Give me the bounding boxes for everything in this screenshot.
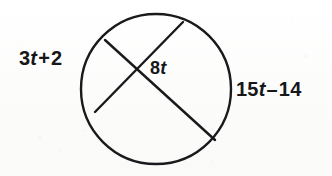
chord-label-center: 8t <box>150 59 166 77</box>
chord-label-center-variable: t <box>160 58 166 78</box>
chord-label-left-operator: + <box>37 47 51 69</box>
chord-label-left-constant: 2 <box>51 47 62 69</box>
chord-upper-left-to-lower-right <box>105 40 215 140</box>
chord-label-right-constant: 14 <box>279 78 302 100</box>
chord-label-right-coefficient: 15 <box>236 78 259 100</box>
chord-label-left-coefficient: 3 <box>19 47 30 69</box>
chord-label-right: 15t–14 <box>236 79 302 99</box>
geometry-figure: 3t+2 8t 15t–14 <box>0 0 332 176</box>
chord-label-left: 3t+2 <box>19 48 62 68</box>
chord-label-right-variable: t <box>259 78 266 100</box>
circle-outline <box>81 14 231 164</box>
chord-label-right-operator: – <box>266 78 279 100</box>
chord-label-center-coefficient: 8 <box>150 58 160 78</box>
